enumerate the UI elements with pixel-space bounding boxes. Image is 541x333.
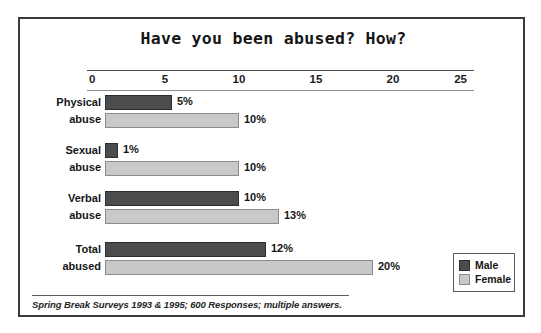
category-label: Verbal abuse (20, 190, 101, 224)
bar-value-male: 5% (177, 95, 193, 107)
axis-tick-25: 25 (454, 73, 467, 85)
chart-frame: Have you been abused? How? 0 5 10 15 20 … (18, 17, 525, 317)
bar-value-male: 10% (244, 191, 266, 203)
bar-male (105, 95, 172, 110)
category-label: Sexual abuse (20, 142, 101, 176)
bar-value-female: 13% (284, 209, 306, 221)
axis-tick-10: 10 (233, 73, 246, 85)
bar-female (105, 113, 239, 128)
bar-male (105, 242, 266, 257)
bar-value-female: 10% (244, 113, 266, 125)
category-label: Total abused (20, 241, 101, 275)
category-label-line1: Total (20, 241, 101, 258)
legend-swatch-male-icon (459, 260, 470, 271)
bar-group: Verbal abuse 10% 13% (20, 191, 527, 227)
category-label: Physical abuse (20, 94, 101, 128)
category-label-line2: abused (20, 258, 101, 275)
bar-female (105, 209, 279, 224)
bar-female (105, 260, 373, 275)
category-label-line2: abuse (20, 111, 101, 128)
footnote: Spring Break Surveys 1993 & 1995; 600 Re… (32, 299, 342, 310)
legend-swatch-female-icon (459, 274, 470, 285)
x-axis: 0 5 10 15 20 25 (87, 70, 474, 91)
axis-tick-15: 15 (310, 73, 323, 85)
axis-tick-20: 20 (387, 73, 400, 85)
axis-tick-0: 0 (89, 73, 95, 85)
bar-male (105, 191, 239, 206)
bar-value-male: 1% (123, 143, 139, 155)
bar-male (105, 143, 118, 158)
plot-area: Physical abuse 5% 10% Sexual abuse 1% 10… (20, 95, 527, 285)
chart-legend: Male Female (453, 253, 515, 292)
category-label-line2: abuse (20, 159, 101, 176)
chart-title: Have you been abused? How? (20, 29, 527, 48)
bar-value-female: 20% (378, 260, 400, 272)
category-label-line1: Verbal (20, 190, 101, 207)
bar-female (105, 161, 239, 176)
chart-page: Have you been abused? How? 0 5 10 15 20 … (0, 0, 541, 333)
axis-tick-5: 5 (162, 73, 168, 85)
legend-label-female: Female (475, 273, 511, 285)
category-label-line1: Physical (20, 94, 101, 111)
legend-label-male: Male (475, 259, 498, 271)
bar-group: Sexual abuse 1% 10% (20, 143, 527, 179)
footnote-rule (32, 295, 349, 296)
bar-value-female: 10% (244, 161, 266, 173)
legend-item-male: Male (459, 258, 509, 272)
bar-group: Total abused 12% 20% (20, 242, 527, 278)
bar-value-male: 12% (271, 242, 293, 254)
bar-group: Physical abuse 5% 10% (20, 95, 527, 131)
category-label-line1: Sexual (20, 142, 101, 159)
legend-item-female: Female (459, 272, 509, 286)
category-label-line2: abuse (20, 207, 101, 224)
